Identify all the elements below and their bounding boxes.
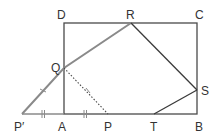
- label-b: B: [195, 120, 203, 134]
- segment-r-s: [131, 23, 197, 90]
- label-r: R: [126, 8, 135, 22]
- label-s: S: [201, 84, 209, 98]
- label-t: T: [150, 120, 158, 134]
- segment-s-t: [154, 90, 197, 114]
- label-d: D: [57, 8, 66, 22]
- dotted-segment-q-p: [64, 68, 108, 114]
- fold-line-p-prime-q-r: [22, 23, 131, 114]
- label-q: Q: [51, 61, 60, 75]
- rectangle-abcd: [64, 23, 197, 114]
- label-c: C: [195, 8, 204, 22]
- geometry-diagram: D R C Q S P′ A P T B: [0, 0, 221, 137]
- label-p-prime: P′: [14, 120, 25, 134]
- label-a: A: [58, 120, 66, 134]
- label-p: P: [104, 120, 112, 134]
